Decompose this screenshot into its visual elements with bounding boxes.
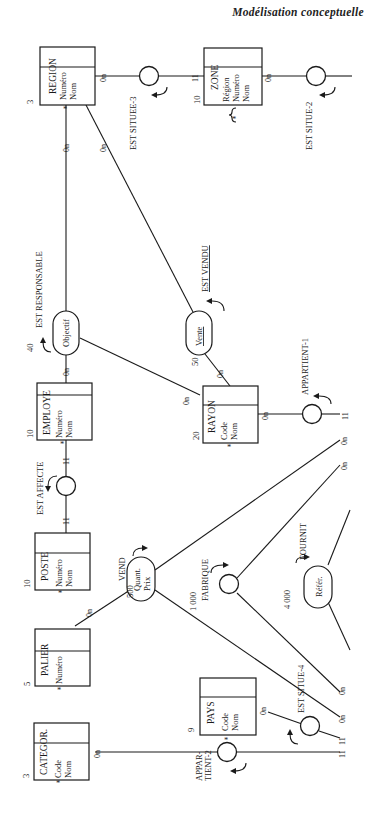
identifier-marker: * — [227, 442, 231, 452]
conceptual-data-model-diagram: REGION Numéro Nom 3 ZONE Région Numéro N… — [0, 0, 372, 826]
relation-est-situe-2: EST SITUE-2 — [304, 67, 335, 151]
svg-text:Numéro: Numéro — [54, 656, 64, 684]
svg-text:11: 11 — [338, 750, 347, 758]
svg-text:0n: 0n — [99, 144, 108, 152]
svg-text:10: 10 — [192, 96, 202, 105]
arrow-icon — [211, 565, 223, 573]
svg-text:11: 11 — [191, 74, 200, 82]
relation-est-affecte: EST AFFECTE — [35, 462, 76, 515]
svg-text:Région: Région — [221, 77, 231, 102]
arrowhead-icon — [206, 298, 212, 304]
identifier-marker: * — [58, 588, 62, 598]
svg-text:EST SITUE-2: EST SITUE-2 — [304, 102, 314, 150]
svg-text:Numéro: Numéro — [231, 74, 241, 102]
svg-text:APPARTIENT-1: APPARTIENT-1 — [300, 338, 310, 395]
svg-text:1 000: 1 000 — [188, 592, 198, 611]
svg-text:EST VENDU: EST VENDU — [200, 245, 210, 292]
link-fabrique-out-top — [237, 465, 340, 578]
arrow-icon — [133, 548, 143, 556]
svg-text:Nom: Nom — [230, 714, 240, 731]
link-objectif-rayon — [80, 338, 200, 395]
svg-text:11: 11 — [338, 737, 347, 745]
svg-text:0n: 0n — [182, 397, 191, 405]
svg-text:ZONE: ZONE — [210, 64, 220, 90]
svg-text:Code: Code — [219, 422, 229, 440]
svg-text:PALIER: PALIER — [40, 643, 50, 676]
svg-text:Nom: Nom — [68, 83, 78, 100]
arrow-icon — [290, 734, 298, 744]
svg-text:0n: 0n — [216, 370, 225, 378]
svg-text:Nom: Nom — [229, 423, 239, 440]
svg-text:11: 11 — [62, 457, 71, 465]
svg-text:RAYON: RAYON — [207, 400, 217, 433]
svg-text:POSTE: POSTE — [40, 552, 50, 581]
svg-text:EST SITUE-4: EST SITUE-4 — [296, 664, 306, 713]
svg-text:EMPLOYE: EMPLOYE — [42, 390, 52, 435]
link-vente-rayon — [205, 354, 230, 386]
link-region-vente — [86, 105, 193, 312]
arrowhead-icon — [223, 562, 229, 568]
relation-fournit: Référ. FOURNIT 4 000 — [282, 522, 332, 609]
svg-text:0n: 0n — [259, 707, 268, 715]
relation-est-responsable: Objectif EST RESPONSABLE 40 — [25, 251, 79, 355]
svg-text:10: 10 — [22, 580, 32, 589]
svg-text:0n: 0n — [99, 74, 108, 82]
svg-text:Vente: Vente — [194, 326, 204, 346]
svg-text:0n: 0n — [340, 437, 349, 445]
svg-text:0n: 0n — [62, 144, 71, 152]
arrowhead-icon — [142, 545, 148, 551]
svg-text:FOURNIT: FOURNIT — [298, 522, 308, 560]
svg-text:Numéro: Numéro — [54, 410, 64, 438]
svg-text:PAYS: PAYS — [206, 701, 216, 724]
entity-region: REGION Numéro Nom 3 — [25, 47, 95, 105]
svg-text:Numéro: Numéro — [58, 72, 68, 100]
arrowhead-icon — [319, 92, 325, 98]
link-est-situe-4-out — [319, 731, 340, 738]
relation-fabrique: FABRIQUE 1 000 — [188, 559, 239, 611]
svg-text:VEND: VEND — [117, 557, 127, 581]
relation-est-situe-4: EST SITUE-4 — [287, 664, 320, 744]
entity-palier: PALIER Numéro 5 — [22, 629, 90, 686]
link-palier-vend — [75, 590, 130, 626]
svg-text:500: 500 — [125, 585, 135, 598]
entity-employe: EMPLOYE Numéro Nom 10 — [25, 383, 92, 440]
identifier-marker: * — [63, 104, 67, 114]
svg-text:EST RESPONSABLE: EST RESPONSABLE — [34, 251, 44, 328]
entity-rayon: RAYON Code Nom 20 — [191, 386, 258, 443]
relation-appartient-2: APPAR- TIENT-2 — [194, 743, 246, 782]
identifier-marker: * — [60, 439, 64, 449]
svg-text:40: 40 — [25, 344, 35, 353]
link-fournit-out-top — [328, 510, 350, 565]
svg-text:Nom: Nom — [63, 761, 73, 778]
svg-text:11: 11 — [62, 517, 71, 525]
svg-text:Objectif: Objectif — [61, 319, 71, 347]
entity-pays: PAYS Code Nom 9 — [186, 678, 256, 735]
svg-text:4 000: 4 000 — [282, 590, 292, 609]
svg-text:Prix: Prix — [142, 576, 152, 591]
arrowhead-icon — [313, 393, 319, 399]
svg-text:EST SITUEE-3: EST SITUEE-3 — [128, 97, 138, 150]
svg-text:0n: 0n — [85, 609, 94, 617]
relation-vend: Quant. Prix VEND 500 — [117, 545, 155, 601]
svg-text:5: 5 — [22, 682, 32, 686]
svg-text:Référ.: Référ. — [314, 576, 324, 597]
svg-text:11: 11 — [341, 412, 350, 420]
relation-est-situee-3: EST SITUEE-3 — [128, 67, 167, 151]
svg-text:Nom: Nom — [64, 570, 74, 587]
arrow-icon — [43, 342, 51, 352]
relation-appartient-1: APPARTIENT-1 — [300, 338, 331, 423]
svg-text:3: 3 — [21, 774, 31, 778]
svg-text:0n: 0n — [338, 715, 347, 723]
identifier-marker: * — [56, 778, 60, 788]
svg-text:REGION: REGION — [48, 58, 58, 94]
svg-text:20: 20 — [191, 432, 201, 441]
svg-text:9: 9 — [186, 728, 196, 732]
svg-text:Nom: Nom — [241, 85, 251, 102]
arrow-icon — [212, 301, 224, 311]
svg-text:0n: 0n — [93, 750, 102, 758]
svg-text:TIENT-2: TIENT-2 — [203, 750, 213, 781]
arrowhead-icon — [230, 768, 236, 774]
svg-text:0n: 0n — [264, 74, 273, 82]
svg-text:50: 50 — [190, 358, 200, 367]
svg-text:10: 10 — [25, 430, 35, 439]
